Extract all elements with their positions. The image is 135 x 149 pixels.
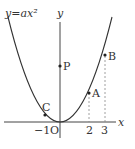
- point-b-label: B: [108, 50, 116, 63]
- point-a: [87, 91, 90, 94]
- point-p: [58, 64, 61, 67]
- parabola-diagram: y=ax² y x O C A B P −1 2 3: [0, 0, 135, 149]
- point-a-label: A: [91, 87, 101, 100]
- tick-label-neg1: −1: [34, 124, 50, 137]
- curve-label: y=ax²: [4, 7, 38, 20]
- point-b: [103, 53, 106, 56]
- x-axis-label: x: [118, 116, 125, 129]
- tick-label-3: 3: [101, 124, 108, 137]
- y-axis-label: y: [56, 7, 64, 20]
- tick-label-2: 2: [86, 124, 93, 137]
- point-p-label: P: [63, 60, 71, 73]
- point-c-label: C: [42, 101, 50, 114]
- origin-label: O: [50, 124, 59, 137]
